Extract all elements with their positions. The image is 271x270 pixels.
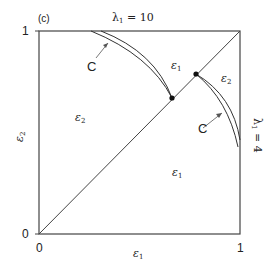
y-axis-symbol: ε [13, 136, 26, 142]
diagonal-line [39, 31, 240, 234]
lambda-label-top: λ1 = 10 [112, 12, 154, 25]
boundary-curve-right [196, 74, 238, 147]
x-axis-label: ε1 [133, 248, 143, 261]
y-tick-label-1: 1 [22, 25, 29, 37]
region-label-lower-right: ε1 [172, 167, 182, 180]
lambda-value: = 10 [123, 11, 153, 24]
region-subscript: 2 [81, 117, 85, 125]
critical-point-2 [193, 71, 198, 76]
region-label-upper-middle: ε1 [171, 60, 181, 73]
y-tick-label-0: 0 [22, 228, 29, 240]
arrowhead-icon [103, 43, 108, 48]
boundary-curve-upper [91, 31, 172, 98]
x-tick-label-0: 0 [36, 242, 43, 254]
region-subscript: 2 [227, 78, 231, 86]
region-subscript: 1 [178, 172, 182, 180]
x-tick-label-1: 1 [237, 242, 244, 254]
lambda-label-right: λ1 = 4 [250, 118, 263, 153]
lambda-symbol: λ [112, 11, 119, 24]
y-axis-label: ε2 [14, 132, 27, 142]
region-label-right: ε2 [221, 73, 231, 86]
panel-label: (c) [38, 14, 50, 24]
x-axis-subscript: 1 [139, 253, 143, 261]
region-subscript: 1 [177, 65, 181, 73]
lambda-symbol: λ [251, 118, 264, 125]
y-axis-subscript: 2 [19, 132, 27, 136]
lambda-value: = 4 [251, 129, 264, 152]
phase-diagram-plot [0, 0, 271, 270]
curve-label-upper: C [87, 60, 96, 73]
curve-label-right: C [198, 122, 207, 135]
critical-point-1 [169, 95, 174, 100]
region-label-left: ε2 [75, 112, 85, 125]
